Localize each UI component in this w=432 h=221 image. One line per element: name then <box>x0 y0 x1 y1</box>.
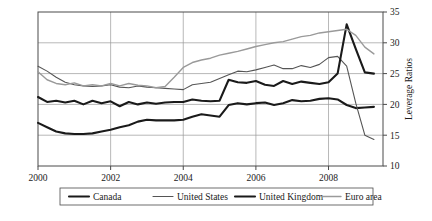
y-axis-title: Leverage Ratios <box>404 58 414 120</box>
series-line-canada <box>38 98 374 134</box>
legend-label-canada: Canada <box>93 192 122 202</box>
ytick-label: 25 <box>390 69 400 79</box>
legend-label-euro-area: Euro area <box>345 192 382 202</box>
ytick-label: 30 <box>390 38 400 48</box>
ytick-label: 20 <box>390 100 400 110</box>
leverage-ratios-chart-figure: 10152025303520002002200420062008Leverage… <box>0 0 432 221</box>
legend-label-united-kingdom: United Kingdom <box>259 192 324 202</box>
ytick-label: 35 <box>390 7 400 17</box>
xtick-label: 2006 <box>246 173 265 183</box>
series-line-united-kingdom <box>38 24 374 106</box>
xtick-label: 2002 <box>101 173 120 183</box>
xtick-label: 2000 <box>29 173 48 183</box>
xtick-label: 2004 <box>174 173 193 183</box>
ytick-label: 15 <box>390 131 400 141</box>
xtick-label: 2008 <box>319 173 338 183</box>
chart-canvas: 10152025303520002002200420062008Leverage… <box>0 0 432 221</box>
ytick-label: 10 <box>390 161 400 171</box>
series-line-euro-area <box>38 29 374 88</box>
legend-label-united-states: United States <box>177 192 228 202</box>
plot-frame <box>38 12 383 166</box>
